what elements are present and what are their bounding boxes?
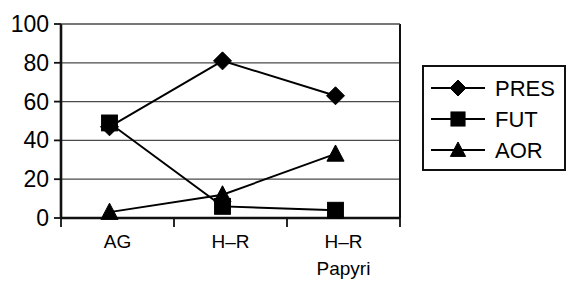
legend-label: PRES bbox=[495, 76, 555, 101]
y-tick-label: 20 bbox=[23, 166, 49, 192]
legend-label: AOR bbox=[495, 138, 543, 163]
chart-legend: PRESFUTAOR bbox=[423, 66, 565, 170]
x-tick-label: AG bbox=[104, 231, 131, 252]
y-tick-label: 40 bbox=[23, 127, 49, 153]
square-marker bbox=[102, 115, 118, 131]
chart-canvas: 100806040200 AGH–RH–RPapyri PRESFUTAOR bbox=[0, 0, 587, 287]
line-chart: 100806040200 AGH–RH–RPapyri PRESFUTAOR bbox=[0, 0, 587, 287]
y-tick-label: 0 bbox=[36, 205, 49, 231]
legend-label: FUT bbox=[495, 107, 538, 132]
x-tick-label: Papyri bbox=[317, 258, 371, 279]
square-marker bbox=[328, 202, 344, 218]
square-marker bbox=[451, 112, 465, 126]
y-tick-label: 100 bbox=[11, 11, 49, 37]
y-tick-label: 80 bbox=[23, 50, 49, 76]
y-tick-label: 60 bbox=[23, 89, 49, 115]
x-tick-label: H–R bbox=[211, 231, 249, 252]
x-tick-label: H–R bbox=[324, 231, 362, 252]
